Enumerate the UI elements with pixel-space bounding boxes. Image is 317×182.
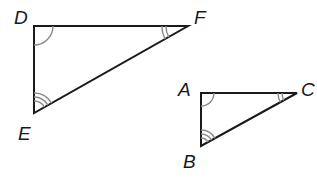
vertex-label-b: B xyxy=(183,151,196,172)
vertex-label-f: F xyxy=(194,7,207,28)
vertex-label-c: C xyxy=(301,79,315,100)
angle-mark-a xyxy=(201,93,214,106)
triangle-def xyxy=(34,26,188,113)
vertex-label-d: D xyxy=(14,7,28,28)
similar-triangles-diagram: D F E A C B xyxy=(0,0,317,182)
angle-mark-d xyxy=(34,26,53,45)
vertex-label-e: E xyxy=(18,123,31,144)
triangle-abc xyxy=(201,93,297,146)
vertex-label-a: A xyxy=(177,79,191,100)
